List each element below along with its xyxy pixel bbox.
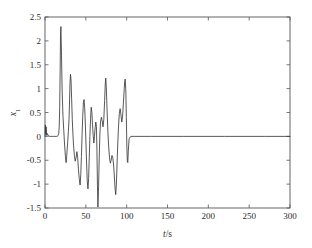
x-tick-label: 250 [242, 211, 256, 221]
y-tick-label: -1.5 [27, 203, 42, 213]
y-tick-label: 1.5 [30, 60, 42, 70]
x-tick-label: 300 [283, 211, 297, 221]
x-tick-label: 0 [43, 211, 48, 221]
y-tick-label: 0 [37, 132, 42, 142]
y-tick-label: -1 [34, 179, 42, 189]
x-tick-label: 100 [120, 211, 134, 221]
y-tick-label: 2.5 [30, 12, 42, 22]
x-tick-label: 150 [161, 211, 175, 221]
x-tick-label: 50 [81, 211, 91, 221]
y-tick-label: 0.5 [30, 108, 42, 118]
x-axis-title: t/s [163, 229, 172, 239]
y-tick-label: -0.5 [27, 155, 42, 165]
y-tick-label: 2 [37, 36, 42, 46]
x-tick-label: 200 [202, 211, 216, 221]
figure-container: 050100150200250300 -1.5-1-0.500.511.522.… [0, 0, 312, 248]
line-chart: 050100150200250300 -1.5-1-0.500.511.522.… [0, 0, 312, 248]
y-tick-label: 1 [37, 84, 42, 94]
